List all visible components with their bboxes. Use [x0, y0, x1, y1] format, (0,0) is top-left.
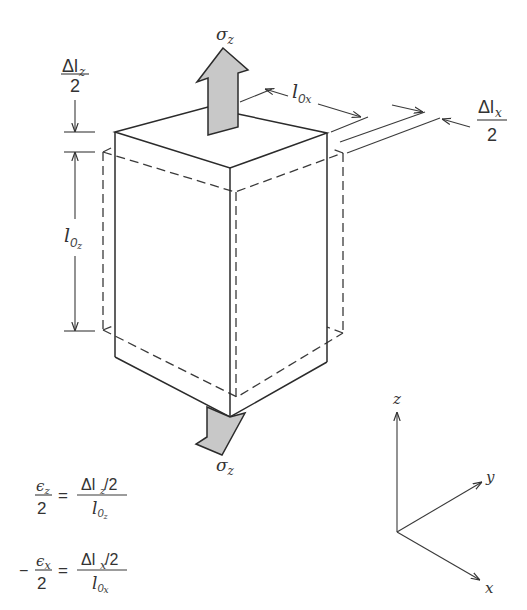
delta-lz-half-dimension [64, 100, 95, 152]
delta-lx-half-dimension [392, 105, 470, 127]
stress-arrow-top [197, 48, 248, 135]
l0z-label: l0z [64, 224, 82, 251]
svg-text:Δl: Δl [478, 97, 494, 117]
stress-arrow-bottom [196, 407, 245, 455]
delta-lx-half-label: Δl x 2 [477, 97, 507, 145]
svg-text:x: x [495, 106, 502, 120]
z-axis-label: z [392, 390, 401, 408]
svg-text:2: 2 [70, 76, 80, 96]
svg-text:/2: /2 [105, 551, 118, 568]
y-axis [397, 482, 482, 532]
x-axis-label: x [485, 579, 494, 597]
svg-text:2: 2 [37, 574, 46, 593]
svg-text:−: − [19, 562, 28, 579]
svg-text:l0x: l0x [92, 573, 109, 595]
svg-text:=: = [58, 561, 68, 580]
svg-text:ϵz: ϵz [36, 477, 50, 496]
undeformed-block-outline [103, 146, 343, 397]
svg-text:Δl: Δl [81, 551, 95, 568]
delta-lz-half-label: Δl z 2 [61, 56, 89, 96]
l0x-label: l0x [292, 80, 312, 106]
y-axis-label: y [485, 468, 495, 486]
svg-text:Δl: Δl [81, 476, 95, 493]
coordinate-axes: z y x [392, 390, 495, 597]
strain-diagram: σz σz Δl z 2 l0z l0x [0, 0, 527, 610]
svg-text:l0z: l0z [92, 498, 109, 521]
sigma-z-top-label: σz [216, 24, 235, 47]
svg-text:ϵx: ϵx [36, 552, 51, 572]
equation-x-strain: − ϵx 2 = Δl x /2 l0x [19, 551, 127, 595]
deformed-block [115, 107, 327, 417]
svg-text:2: 2 [487, 125, 497, 145]
svg-text:=: = [58, 486, 68, 505]
svg-text:2: 2 [37, 499, 46, 518]
svg-text:/2: /2 [104, 476, 117, 493]
x-axis [397, 532, 480, 580]
equation-z-strain: ϵz 2 = Δl z /2 l0z [35, 476, 127, 521]
sigma-z-bottom-label: σz [216, 455, 235, 478]
svg-text:Δl: Δl [62, 56, 78, 76]
